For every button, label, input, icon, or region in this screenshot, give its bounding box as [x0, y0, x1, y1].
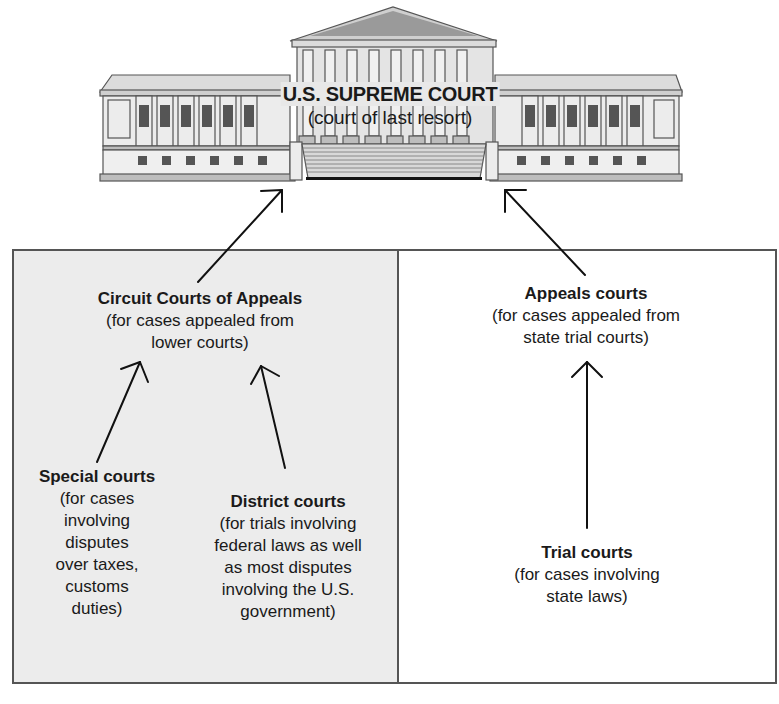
circuit-courts-title: Circuit Courts of Appeals	[98, 288, 302, 310]
arrow-state-appeals-to-supreme-icon	[505, 190, 585, 275]
state-appeals-courts-title: Appeals courts	[492, 283, 680, 305]
arrow-special-to-circuit-icon	[97, 362, 148, 462]
arrow-circuit-to-supreme-icon	[198, 190, 282, 282]
special-courts-title: Special courts	[39, 466, 155, 488]
arrow-district-to-circuit-icon	[251, 366, 285, 468]
special-courts-node: Special courts (for cases involving disp…	[39, 466, 155, 620]
trial-courts-node: Trial courts (for cases involving state …	[514, 542, 660, 608]
arrow-trial-to-state-appeals-icon	[572, 362, 602, 528]
state-appeals-courts-node: Appeals courts (for cases appealed from …	[492, 283, 680, 349]
district-courts-node: District courts (for trials involving fe…	[214, 491, 361, 623]
circuit-courts-node: Circuit Courts of Appeals (for cases app…	[98, 288, 302, 354]
district-courts-title: District courts	[214, 491, 361, 513]
trial-courts-title: Trial courts	[514, 542, 660, 564]
